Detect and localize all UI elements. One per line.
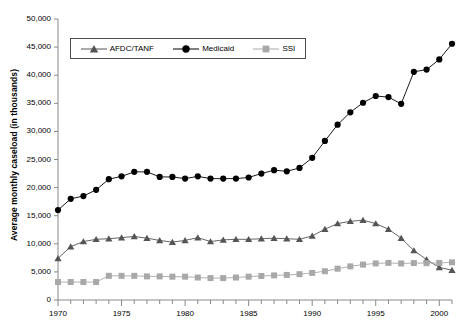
chart-legend: AFDC/TANF Medicaid SSI — [70, 38, 306, 59]
y-tick-label: 0 — [7, 295, 51, 304]
x-tick-label: 1985 — [229, 309, 269, 318]
triangle-marker-icon — [81, 43, 107, 55]
x-tick-label: 2000 — [419, 309, 457, 318]
series-medicaid — [55, 41, 455, 214]
y-tick-label: 40,000 — [7, 70, 51, 79]
circle-marker-icon — [173, 43, 199, 55]
legend-label-ssi: SSI — [282, 44, 295, 53]
y-tick-label: 20,000 — [7, 183, 51, 192]
y-tick-label: 25,000 — [7, 155, 51, 164]
legend-item-ssi: SSI — [253, 43, 295, 55]
series-ssi — [55, 259, 455, 285]
y-tick-label: 30,000 — [7, 126, 51, 135]
x-tick-label: 1970 — [38, 309, 78, 318]
square-marker-icon — [253, 43, 279, 55]
y-tick-label: 15,000 — [7, 211, 51, 220]
legend-label-afdc-tanf: AFDC/TANF — [110, 44, 154, 53]
x-tick-label: 1975 — [102, 309, 142, 318]
series-afdc-tanf — [54, 217, 455, 273]
legend-item-medicaid: Medicaid — [173, 43, 234, 55]
y-tick-label: 45,000 — [7, 42, 51, 51]
legend-item-afdc-tanf: AFDC/TANF — [81, 43, 154, 55]
y-tick-label: 10,000 — [7, 239, 51, 248]
x-tick-label: 1995 — [356, 309, 396, 318]
y-tick-label: 35,000 — [7, 98, 51, 107]
y-tick-label: 5,000 — [7, 267, 51, 276]
x-tick-label: 1990 — [292, 309, 332, 318]
legend-label-medicaid: Medicaid — [202, 44, 234, 53]
x-tick-label: 1980 — [165, 309, 205, 318]
y-tick-label: 50,000 — [7, 14, 51, 23]
chart-container: Average monthly caseload (in thousands) … — [0, 0, 457, 335]
